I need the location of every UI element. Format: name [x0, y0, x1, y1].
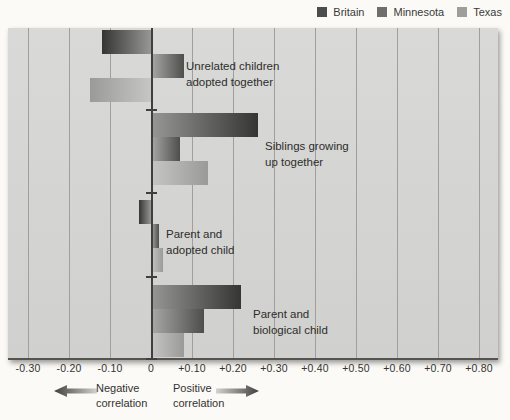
bar-britain-group4 — [151, 285, 241, 309]
bar-britain-group3 — [139, 200, 151, 224]
axis-tick-label--0.20: -0.20 — [47, 362, 91, 374]
gridline-+0.60 — [397, 28, 398, 358]
legend-item-britain: Britain — [317, 6, 364, 18]
bar-texas-group3 — [151, 248, 163, 272]
axis-tick-label-+0.50: +0.50 — [334, 362, 378, 374]
zero-axis-tick — [146, 109, 157, 111]
group-label-line: Parent and — [166, 226, 234, 242]
group-label-line: Siblings growing — [265, 138, 349, 154]
group-label-line: biological child — [253, 322, 328, 338]
axis-tick-label-+0.40: +0.40 — [293, 362, 337, 374]
group-label-3: Parent andadopted child — [166, 226, 234, 258]
legend-label: Britain — [333, 6, 364, 18]
legend-label: Texas — [473, 6, 502, 18]
group-label-1: Unrelated childrenadopted together — [186, 58, 279, 90]
axis-tick-label-+0.80: +0.80 — [457, 362, 501, 374]
negative-correlation-line2: correlation — [96, 396, 147, 411]
negative-correlation-line1: Negative — [96, 381, 147, 396]
correlation-bar-chart-figure: BritainMinnesotaTexas Unrelated children… — [0, 0, 510, 420]
zero-axis-tick — [146, 358, 157, 360]
gridline--0.20 — [69, 28, 70, 358]
legend-swatch-minnesota — [377, 7, 387, 17]
legend-item-texas: Texas — [457, 6, 502, 18]
zero-axis-tick — [146, 276, 157, 278]
bar-britain-group1 — [102, 30, 151, 54]
gridline-+0.80 — [479, 28, 480, 358]
group-label-line: Unrelated children — [186, 58, 279, 74]
bar-texas-group2 — [151, 161, 208, 185]
axis-tick-label-+0.20: +0.20 — [211, 362, 255, 374]
gridline-+0.70 — [438, 28, 439, 358]
group-label-2: Siblings growingup together — [265, 138, 349, 170]
legend-item-minnesota: Minnesota — [377, 6, 444, 18]
bar-minnesota-group1 — [151, 54, 184, 78]
group-label-4: Parent andbiological child — [253, 306, 328, 338]
bar-minnesota-group2 — [151, 137, 180, 161]
axis-tick-label-+0.10: +0.10 — [170, 362, 214, 374]
negative-correlation-label: Negative correlation — [96, 381, 147, 411]
legend-label: Minnesota — [393, 6, 444, 18]
axis-tick-label-+0.60: +0.60 — [375, 362, 419, 374]
zero-axis-tick — [146, 192, 157, 194]
group-label-line: up together — [265, 154, 349, 170]
bar-texas-group4 — [151, 333, 184, 357]
legend-swatch-britain — [317, 7, 327, 17]
plot-area: Unrelated childrenadopted togetherSiblin… — [8, 28, 498, 360]
group-label-line: adopted child — [166, 242, 234, 258]
gridline-+0.50 — [356, 28, 357, 358]
axis-tick-label--0.30: -0.30 — [6, 362, 50, 374]
axis-tick-label-0: 0 — [129, 362, 173, 374]
bar-minnesota-group4 — [151, 309, 204, 333]
axis-tick-label--0.10: -0.10 — [88, 362, 132, 374]
legend-swatch-texas — [457, 7, 467, 17]
axis-tick-label-+0.70: +0.70 — [416, 362, 460, 374]
group-label-line: Parent and — [253, 306, 328, 322]
bar-texas-group1 — [90, 78, 152, 102]
axis-tick-label-+0.30: +0.30 — [252, 362, 296, 374]
positive-arrow-icon — [215, 384, 259, 402]
legend: BritainMinnesotaTexas — [317, 6, 502, 18]
bar-britain-group2 — [151, 113, 258, 137]
gridline--0.30 — [28, 28, 29, 358]
group-label-line: adopted together — [186, 74, 279, 90]
negative-arrow-icon — [54, 384, 98, 402]
